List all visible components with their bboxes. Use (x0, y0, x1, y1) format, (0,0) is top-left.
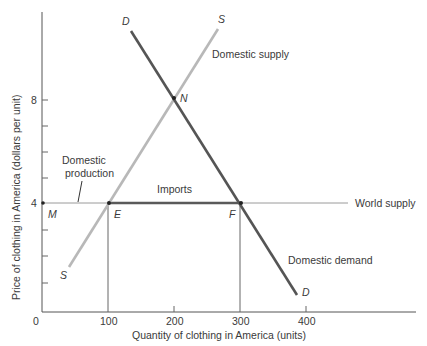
label-F: F (229, 208, 236, 220)
label-S-top: S (218, 13, 225, 25)
domestic-production-leader (78, 181, 82, 202)
point-F (239, 201, 243, 205)
x-tick-200: 200 (166, 315, 184, 327)
label-E: E (114, 208, 122, 220)
label-D-top: D (122, 15, 130, 27)
imports-label: Imports (157, 183, 192, 195)
x-tick-400: 400 (298, 315, 316, 327)
x-tick-0: 0 (33, 315, 39, 327)
point-E (107, 201, 111, 205)
domestic-demand-label: Domestic demand (288, 254, 373, 266)
point-N (172, 96, 176, 100)
point-M (41, 201, 45, 205)
domestic-supply-label: Domestic supply (212, 48, 290, 60)
label-N: N (180, 92, 188, 104)
world-supply-label: World supply (355, 197, 416, 209)
label-S-bottom: S (60, 269, 67, 281)
y-ticks (42, 100, 48, 283)
domestic-production-label-line1: Domestic (62, 154, 106, 166)
x-tick-300: 300 (232, 315, 250, 327)
domestic-production-label-line2: production (65, 167, 114, 179)
x-tick-100: 100 (100, 315, 118, 327)
domestic-supply-line (69, 29, 218, 267)
domestic-demand-line (131, 31, 297, 295)
label-M: M (48, 208, 57, 220)
trade-chart: 8 4 0 100 200 300 400 Quantity of clothi… (0, 0, 427, 346)
y-tick-4: 4 (31, 197, 37, 209)
y-axis-title: Price of clothing in America (dollars pe… (10, 95, 22, 300)
label-D-bottom: D (302, 286, 310, 298)
y-tick-8: 8 (31, 94, 37, 106)
x-axis-title: Quantity of clothing in America (units) (132, 329, 306, 341)
